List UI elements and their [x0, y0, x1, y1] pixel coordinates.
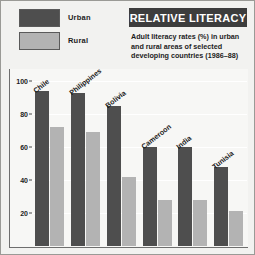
relative-literacy-chart-card: Urban Rural RELATIVE LITERACY Adult lite…	[0, 0, 255, 255]
bar-group: India	[178, 81, 207, 246]
plot-frame: 20406080100ChilePhilippinesBoliviaCamero…	[9, 69, 248, 248]
legend-label-urban: Urban	[68, 13, 91, 22]
chart-title: RELATIVE LITERACY	[130, 12, 247, 24]
bar-rural	[158, 200, 172, 246]
chart-title-banner: RELATIVE LITERACY	[129, 8, 247, 27]
y-axis-tick-label: 100	[16, 78, 28, 85]
bar-rural	[193, 200, 207, 246]
bar-group: Philippines	[71, 81, 100, 246]
bar-rural	[50, 127, 64, 246]
plot-area: 20406080100ChilePhilippinesBoliviaCamero…	[32, 81, 247, 246]
bar-urban	[214, 167, 228, 246]
y-axis-tick-mark	[29, 81, 32, 82]
y-axis-tick-label: 20	[20, 210, 28, 217]
legend-item-urban: Urban	[19, 7, 124, 28]
bar-rural	[122, 177, 136, 246]
bar-rural	[86, 132, 100, 246]
y-axis-tick-mark	[29, 180, 32, 181]
y-axis-tick-label: 40	[20, 177, 28, 184]
bar-group: Chile	[35, 81, 64, 246]
legend-swatch-rural	[19, 32, 60, 50]
bar-group: Tunisia	[214, 81, 243, 246]
bar-urban	[178, 147, 192, 246]
bar-urban	[71, 93, 85, 246]
legend-label-rural: Rural	[68, 36, 88, 45]
bar-urban	[35, 91, 49, 246]
legend-swatch-urban	[19, 9, 60, 27]
bar-rural	[229, 211, 243, 246]
chart-subtitle: Adult literacy rates (%) in urban and ru…	[131, 32, 249, 61]
legend-item-rural: Rural	[19, 30, 124, 51]
y-axis-tick-label: 60	[20, 144, 28, 151]
y-axis-tick-label: 80	[20, 111, 28, 118]
y-axis-tick-mark	[29, 213, 32, 214]
bar-urban	[107, 106, 121, 246]
y-axis-tick-mark	[29, 147, 32, 148]
bar-urban	[143, 147, 157, 246]
y-axis-tick-mark	[29, 114, 32, 115]
chart-header: Urban Rural RELATIVE LITERACY Adult lite…	[1, 1, 255, 67]
bar-group: Bolivia	[107, 81, 136, 246]
x-axis-category-label: Philippines	[67, 66, 103, 97]
chart-legend: Urban Rural	[19, 7, 124, 53]
bar-group: Cameroon	[143, 81, 172, 246]
